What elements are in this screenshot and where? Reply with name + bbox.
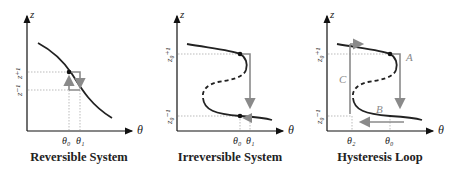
branch-label-c: C: [339, 73, 347, 85]
lower-branch: [353, 98, 422, 120]
panel-irreversible: z θ z₀⁺¹ z₀⁻¹ θ₀ θ₁: [164, 8, 294, 146]
y-tick-label: z₀⁻¹: [164, 110, 174, 125]
x-tick-label: θ₀: [385, 135, 394, 146]
x-tick-label: θ₀: [233, 135, 242, 146]
upper-branch: [337, 44, 397, 70]
panel-hysteresis: A B C z θ z₀⁺¹ z₀⁻¹ θ₂ θ₀: [314, 8, 444, 146]
state-point: [238, 52, 243, 57]
branch-label-b: B: [376, 103, 383, 115]
upper-branch: [187, 44, 247, 70]
unstable-branch: [203, 70, 246, 98]
branch-a-arrow: [390, 54, 400, 106]
y-tick-label: z₀⁺¹: [314, 48, 324, 63]
branch-label-a: A: [405, 51, 413, 63]
y-tick-label: z₀⁻¹: [314, 110, 324, 125]
caption-hysteresis: Hysteresis Loop: [305, 150, 455, 165]
cycle-path: [69, 72, 80, 90]
state-point: [388, 52, 393, 57]
theta-axis-label: θ: [137, 123, 143, 137]
x-tick-label: θ₂: [347, 135, 356, 146]
x-tick-label: θ₁: [76, 135, 84, 146]
lower-branch: [203, 98, 272, 120]
caption-irreversible: Irreversible System: [155, 150, 305, 165]
x-tick-label: θ₀: [62, 135, 71, 146]
diagram-canvas: z θ z⁺¹ z⁻¹ θ₀ θ₁ z θ z₀⁺¹ z₀⁻¹ θ₀ θ₁: [0, 0, 455, 173]
z-axis-label: z: [29, 8, 35, 20]
theta-axis-label: θ: [438, 123, 444, 137]
state-point: [238, 114, 243, 119]
y-tick-label: z⁻¹: [14, 85, 24, 97]
caption-reversible: Reversible System: [4, 150, 154, 165]
jump-arrow: [240, 54, 250, 106]
panel-reversible: z θ z⁺¹ z⁻¹ θ₀ θ₁: [14, 8, 143, 146]
theta-axis-label: θ: [288, 123, 294, 137]
y-tick-label: z⁺¹: [14, 68, 24, 80]
unstable-branch: [353, 70, 396, 98]
response-curve: [38, 43, 112, 118]
x-tick-label: θ₁: [246, 135, 254, 146]
z-axis-label: z: [179, 8, 185, 20]
y-tick-label: z₀⁺¹: [164, 48, 174, 63]
state-point: [67, 70, 72, 75]
z-axis-label: z: [329, 8, 335, 20]
